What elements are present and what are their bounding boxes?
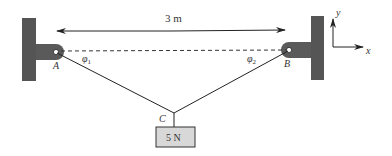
cable-diagram: 3 m 5 N A B C φ1 φ2 y x [0,0,392,156]
y-axis-label: y [335,7,341,18]
right-wall [311,16,324,80]
point-b-label: B [284,58,290,69]
left-bracket [36,44,64,60]
point-a-label: A [52,60,60,71]
weight-label: 5 N [166,132,181,143]
cable-ac [57,53,174,113]
distance-label: 3 m [165,12,182,24]
x-axis-label: x [365,45,371,56]
dashed-reference-line [61,50,286,51]
left-wall [22,18,36,81]
dimension-arrow-right [172,30,285,31]
cable-bc [174,51,288,113]
angle-phi1-label: φ1 [82,53,92,66]
angle-phi2-label: φ2 [247,53,257,66]
point-c-label: C [159,113,166,124]
